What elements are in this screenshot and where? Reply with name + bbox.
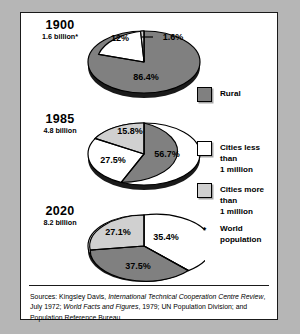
legend-label-cities-less-line1: Cities less than (220, 143, 260, 163)
legend-item-cities-more[interactable]: Cities more than 1 million (197, 183, 279, 218)
sources-part1: Kingsley Davis, (57, 293, 108, 300)
legend-label-cities-less: Cities less than 1 million (220, 141, 279, 176)
legend-swatch-rural (197, 87, 212, 102)
legend-item-rural[interactable]: Rural (197, 87, 241, 102)
legend-item-cities-less[interactable]: Cities less than 1 million (197, 141, 279, 176)
sources-divider (29, 285, 269, 286)
sources-italic3: World Facts and Figures (63, 303, 138, 310)
legend-label-cities-more-line1: Cities more than (220, 185, 264, 205)
sources-italic2: Review (241, 293, 264, 300)
chart-panel: 1900 1.6 billion* 12% 86.4% 1.6% 1985 4 (20, 12, 278, 320)
legend-label-cities-less-line2: 1 million (220, 165, 253, 174)
legend-label-rural: Rural (220, 87, 241, 100)
legend-footnote: * World population (197, 224, 261, 246)
legend-label-cities-more-line2: 1 million (220, 207, 253, 216)
sources-note: Sources: Kingsley Davis, International T… (30, 292, 268, 323)
legend-swatch-cities-more (197, 183, 212, 198)
legend-footnote-line2: population (220, 235, 261, 244)
sources-prefix: Sources: (30, 293, 57, 300)
sources-italic1: International Technical Cooperation Cent… (108, 293, 239, 300)
asterisk-icon: * (197, 224, 212, 235)
legend-footnote-label: World population (220, 224, 261, 246)
legend-swatch-cities-less (197, 141, 212, 156)
legend: Rural Cities less than 1 million Cities … (21, 13, 279, 243)
sources-part3: , 1979; UN Population (138, 303, 205, 310)
legend-label-cities-more: Cities more than 1 million (220, 183, 279, 218)
slice-label-rural-2020: 37.5% (125, 261, 151, 271)
legend-footnote-line1: World (220, 224, 243, 233)
